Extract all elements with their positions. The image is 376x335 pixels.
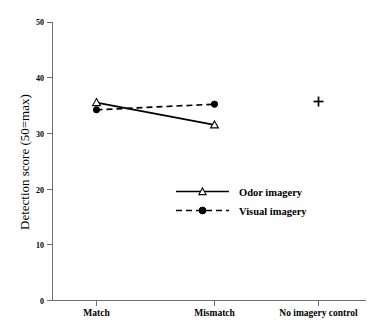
line-chart: 50 40 30 20 10 0 Detection score (50=max… (0, 0, 376, 335)
legend-marker-filled-circle-icon (199, 207, 206, 214)
legend-label-odor-imagery: Odor imagery (239, 187, 303, 198)
y-tick-label-10: 10 (36, 241, 44, 250)
legend-label-visual-imagery: Visual imagery (239, 206, 307, 217)
legend-entry-visual-imagery: Visual imagery (176, 206, 307, 217)
legend-entry-odor-imagery: Odor imagery (176, 187, 303, 198)
data-point-visual-imagery-match (93, 107, 99, 113)
y-axis-title: Detection score (50=max) (17, 94, 32, 230)
y-tick-label-50: 50 (36, 18, 44, 27)
figure-container: 50 40 30 20 10 0 Detection score (50=max… (0, 0, 376, 335)
series-line-visual-imagery (97, 104, 215, 110)
y-tick-label-40: 40 (36, 74, 44, 83)
x-category-label-no-imagery-control: No imagery control (279, 308, 358, 318)
y-tick-label-0: 0 (40, 297, 44, 306)
y-tick-label-20: 20 (36, 186, 44, 195)
x-category-label-match: Match (83, 308, 110, 318)
data-point-odor-imagery-match (93, 99, 101, 106)
data-point-no-imagery-control (314, 97, 324, 107)
legend: Odor imagery Visual imagery (176, 187, 307, 217)
x-category-label-mismatch: Mismatch (194, 308, 235, 318)
y-tick-label-30: 30 (36, 130, 44, 139)
data-point-visual-imagery-mismatch (211, 101, 217, 107)
series-line-odor-imagery (97, 103, 215, 125)
